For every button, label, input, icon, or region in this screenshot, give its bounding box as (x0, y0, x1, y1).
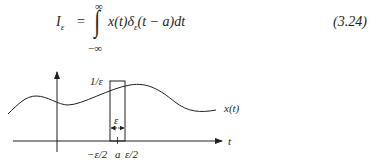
pulse-width-label: ε (114, 114, 119, 126)
signal-curve (8, 84, 216, 114)
tick-label-a: a (115, 148, 121, 160)
tick-label-half-eps: ε/2 (125, 148, 138, 160)
figure: 1/ε ε x(t) t −ε/2 a ε/2 (0, 0, 371, 168)
tick-label-minus-half-eps: −ε/2 (87, 148, 108, 160)
signal-label: x(t) (223, 102, 240, 115)
time-axis-label: t (228, 135, 232, 147)
pulse-height-label: 1/ε (90, 75, 104, 87)
